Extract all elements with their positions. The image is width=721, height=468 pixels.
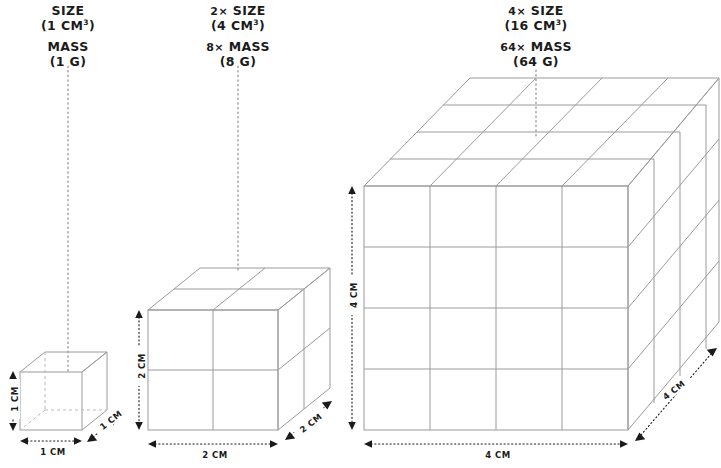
- volume-value-medium: (4 CM: [211, 18, 253, 33]
- volume-close-medium: ): [259, 18, 265, 33]
- mass-label-large: 64× MASS (64 G): [486, 40, 586, 70]
- height-dim-large: 4 CM: [349, 275, 359, 315]
- diagram-canvas: .e{fill:none;stroke:#9a9a9a;stroke-width…: [0, 0, 721, 468]
- mass-value-small: (1 G): [18, 55, 118, 70]
- volume-value-large: (16 CM: [504, 18, 555, 33]
- size-word-small: SIZE: [52, 3, 85, 18]
- volume-value-small: (1 CM: [41, 18, 83, 33]
- mass-word-small: MASS: [47, 39, 88, 54]
- size-label-small: SIZE (1 CM3): [18, 4, 118, 34]
- height-dim-small: 1 CM: [10, 379, 20, 419]
- cube-geometry: .e{fill:none;stroke:#9a9a9a;stroke-width…: [0, 0, 721, 468]
- dimension-arrows-large: [348, 186, 717, 448]
- dimension-arrows-small: [9, 371, 118, 445]
- size-label-large: 4× SIZE (16 CM3): [486, 4, 586, 34]
- mass-label-medium: 8× MASS (8 G): [188, 40, 288, 70]
- mass-word-medium: MASS: [229, 39, 270, 54]
- cube-large: [364, 78, 719, 430]
- cube-small: [20, 352, 107, 430]
- size-word-large: SIZE: [531, 3, 564, 18]
- mass-multiplier-medium: 8×: [206, 41, 224, 54]
- size-multiplier-large: 4×: [508, 5, 526, 18]
- height-dim-medium: 2 CM: [137, 346, 147, 386]
- size-label-medium: 2× SIZE (4 CM3): [188, 4, 288, 34]
- mass-word-large: MASS: [531, 39, 572, 54]
- mass-label-small: MASS (1 G): [18, 40, 118, 70]
- width-dim-large: 4 CM: [478, 450, 518, 460]
- volume-close-small: ): [89, 18, 95, 33]
- size-multiplier-medium: 2×: [210, 5, 228, 18]
- size-word-medium: SIZE: [233, 3, 266, 18]
- mass-value-medium: (8 G): [188, 55, 288, 70]
- volume-close-large: ): [561, 18, 567, 33]
- cube-medium: [148, 268, 330, 430]
- width-dim-medium: 2 CM: [195, 450, 235, 460]
- width-dim-small: 1 CM: [33, 447, 73, 457]
- mass-multiplier-large: 64×: [500, 41, 526, 54]
- mass-value-large: (64 G): [486, 55, 586, 70]
